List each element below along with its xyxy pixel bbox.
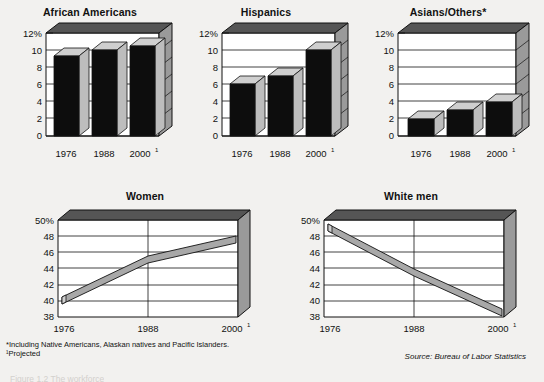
svg-text:0: 0 [213, 130, 218, 141]
svg-text:10: 10 [31, 45, 42, 56]
svg-text:50%: 50% [35, 215, 55, 226]
svg-text:38: 38 [43, 311, 54, 322]
svg-text:12%: 12% [23, 28, 43, 39]
svg-text:1: 1 [247, 322, 251, 328]
chart-hispanics: Hispanics 12% 10 8 6 4 2 0 [182, 6, 350, 166]
svg-text:1988: 1988 [137, 323, 158, 334]
svg-text:46: 46 [43, 247, 54, 258]
svg-text:46: 46 [309, 247, 320, 258]
line-chart-svg-white-men: 50% 48 46 44 42 40 38 [286, 204, 536, 340]
chart-white-men: White men 50% 48 46 44 42 40 38 [286, 190, 536, 340]
bar-2000 [130, 38, 165, 136]
svg-text:2: 2 [389, 113, 394, 124]
line-chart-svg-women: 50% 48 46 44 42 40 38 [20, 204, 270, 340]
bar-chart-svg-asians-others: 12% 10 8 6 4 2 0 [358, 20, 538, 166]
chart-title-african-americans: African Americans [6, 6, 174, 18]
svg-text:2000: 2000 [487, 323, 508, 334]
x-axis-ticks: 1976 1988 2000 1 [410, 147, 516, 159]
svg-text:1976: 1976 [319, 323, 340, 334]
svg-text:2: 2 [213, 113, 218, 124]
source-line: Source: Bureau of Labor Statistics [405, 352, 526, 361]
figure-root: African Americans 12% 10 8 6 4 2 0 [0, 0, 544, 382]
svg-text:50%: 50% [301, 215, 321, 226]
y-axis-ticks: 12% 10 8 6 4 2 0 [23, 28, 43, 141]
svg-text:42: 42 [309, 279, 320, 290]
chart-title-asians-others: Asians/Others* [358, 6, 538, 18]
svg-text:40: 40 [43, 295, 54, 306]
bar-group [46, 38, 165, 136]
svg-text:6: 6 [213, 79, 218, 90]
svg-text:4: 4 [213, 96, 218, 107]
plot-area-asians-others: 12% 10 8 6 4 2 0 [358, 20, 538, 166]
svg-text:44: 44 [43, 263, 54, 274]
bar-1988 [447, 102, 483, 136]
chart-title-hispanics: Hispanics [182, 6, 350, 18]
svg-text:1988: 1988 [269, 148, 290, 159]
svg-text:44: 44 [309, 263, 320, 274]
svg-text:4: 4 [389, 96, 394, 107]
svg-text:12%: 12% [375, 28, 395, 39]
svg-text:2000: 2000 [486, 148, 507, 159]
y-axis-ticks: 50% 48 46 44 42 40 38 [35, 215, 55, 322]
svg-text:1976: 1976 [410, 148, 431, 159]
svg-text:40: 40 [309, 295, 320, 306]
plot-area-african-americans: 12% 10 8 6 4 2 0 [6, 20, 174, 166]
bar-1976 [230, 76, 265, 136]
plot-area-hispanics: 12% 10 8 6 4 2 0 [182, 20, 350, 166]
chart-frame [58, 210, 250, 317]
y-axis-ticks: 12% 10 8 6 4 2 0 [199, 28, 219, 141]
svg-text:48: 48 [43, 231, 54, 242]
x-axis-ticks: 1976 1988 2000 1 [319, 322, 517, 334]
x-axis-ticks: 1976 1988 2000 1 [231, 147, 335, 159]
svg-text:2000: 2000 [305, 148, 326, 159]
svg-text:1: 1 [513, 322, 517, 328]
y-axis-ticks: 12% 10 8 6 4 2 0 [375, 28, 395, 141]
svg-text:1: 1 [155, 147, 159, 153]
footnote-asterisk: *Including Native Americans, Alaskan nat… [6, 340, 229, 349]
bar-1976 [54, 48, 89, 136]
svg-text:0: 0 [37, 130, 42, 141]
bar-2000 [486, 94, 522, 136]
svg-text:48: 48 [309, 231, 320, 242]
svg-text:2000: 2000 [221, 323, 242, 334]
svg-text:6: 6 [37, 79, 42, 90]
svg-text:1976: 1976 [231, 148, 252, 159]
figure-caption-cutoff: Figure 1.2 The workforce [10, 374, 104, 382]
svg-text:4: 4 [37, 96, 42, 107]
svg-text:10: 10 [207, 45, 218, 56]
x-axis-ticks: 1976 1988 2000 1 [55, 147, 159, 159]
footnote-projected: ¹Projected [6, 349, 229, 358]
chart-frame [324, 210, 516, 317]
footnotes: *Including Native Americans, Alaskan nat… [6, 340, 229, 358]
svg-text:12%: 12% [199, 28, 219, 39]
bar-2000 [306, 42, 341, 136]
svg-text:1976: 1976 [53, 323, 74, 334]
bar-1988 [92, 42, 127, 136]
svg-text:38: 38 [309, 311, 320, 322]
bar-chart-svg-african-americans: 12% 10 8 6 4 2 0 [6, 20, 174, 166]
plot-area-women: 50% 48 46 44 42 40 38 [20, 204, 270, 340]
svg-text:8: 8 [213, 62, 218, 73]
svg-text:6: 6 [389, 79, 394, 90]
svg-text:42: 42 [43, 279, 54, 290]
bar-1988 [268, 68, 303, 136]
svg-text:2: 2 [37, 113, 42, 124]
chart-title-women: Women [20, 190, 270, 202]
svg-text:8: 8 [389, 62, 394, 73]
x-axis-ticks: 1976 1988 2000 1 [53, 322, 251, 334]
svg-text:1988: 1988 [93, 148, 114, 159]
chart-women: Women 50% 48 46 44 42 40 38 [20, 190, 270, 340]
plot-area-white-men: 50% 48 46 44 42 40 38 [286, 204, 536, 340]
chart-african-americans: African Americans 12% 10 8 6 4 2 0 [6, 6, 174, 166]
svg-text:1976: 1976 [55, 148, 76, 159]
svg-text:2000: 2000 [129, 148, 150, 159]
svg-text:1988: 1988 [403, 323, 424, 334]
svg-text:8: 8 [37, 62, 42, 73]
chart-title-white-men: White men [286, 190, 536, 202]
svg-text:1: 1 [331, 147, 335, 153]
svg-text:1: 1 [512, 147, 516, 153]
y-axis-ticks: 50% 48 46 44 42 40 38 [301, 215, 321, 322]
svg-text:1988: 1988 [449, 148, 470, 159]
bar-chart-svg-hispanics: 12% 10 8 6 4 2 0 [182, 20, 350, 166]
chart-asians-others: Asians/Others* 12% 10 8 6 4 2 0 [358, 6, 538, 166]
